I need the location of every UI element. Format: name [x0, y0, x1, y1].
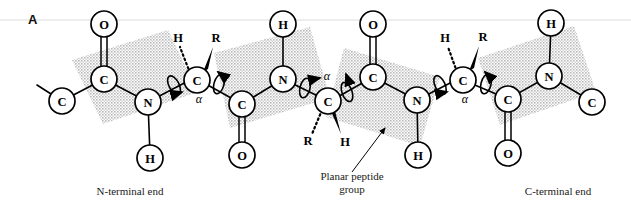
alpha-label-3: α: [462, 92, 469, 106]
caption-c-terminal: C-terminal end: [498, 185, 618, 198]
bond-Ca2-R-dotted: [312, 110, 322, 134]
atom-label-o3: O: [368, 18, 378, 32]
substituent-label-ca2-h: H: [340, 135, 350, 149]
atom-label-term-c-left: C: [57, 95, 66, 109]
substituent-label-ca1-r: R: [211, 31, 221, 45]
caption-n-terminal: N-terminal end: [70, 185, 190, 198]
alpha-label-2: α: [324, 69, 331, 83]
atom-label-c1: C: [99, 73, 108, 87]
atom-label-h4: H: [546, 17, 556, 31]
atom-label-term-c-right: C: [587, 96, 596, 110]
substituent-label-ca1-h: H: [173, 31, 183, 45]
atom-label-n2: N: [278, 73, 287, 87]
atom-label-n4: N: [544, 70, 553, 84]
panel-label-a: A: [28, 12, 37, 27]
atom-label-h3: H: [413, 149, 423, 163]
substituent-label-ca3-h: H: [440, 31, 450, 45]
atom-label-n1: N: [143, 96, 152, 110]
atom-label-ca2: C: [323, 95, 332, 109]
bond-Ca1-R-wedge: [203, 47, 213, 72]
atom-label-c2: C: [237, 98, 246, 112]
caption-planar-peptide-group: Planar peptide group: [292, 170, 412, 195]
atom-label-o1: O: [99, 18, 109, 32]
atom-label-c4: C: [503, 93, 512, 107]
peptide-backbone-figure: C O C N H C H N C O C O C N H C H N C O …: [0, 0, 631, 213]
planar-peptide-group-planes: [72, 26, 596, 146]
atom-label-ca1: C: [192, 74, 201, 88]
atom-label-h2: H: [278, 18, 288, 32]
alpha-label-1: α: [196, 92, 203, 106]
atom-label-o2: O: [237, 149, 247, 163]
atom-label-o4: O: [503, 147, 513, 161]
substituent-label-ca3-r: R: [478, 30, 488, 44]
planar-group-pointer-line: [352, 128, 385, 172]
atom-label-n3: N: [412, 94, 421, 108]
atom-label-ca3: C: [458, 74, 467, 88]
atom-label-c3: C: [368, 71, 377, 85]
substituent-label-ca2-r: R: [303, 134, 313, 148]
bond-Ca3-H-dotted: [448, 47, 457, 72]
atom-label-h1: H: [145, 152, 155, 166]
bond-Ca3-R-wedge: [469, 46, 479, 71]
